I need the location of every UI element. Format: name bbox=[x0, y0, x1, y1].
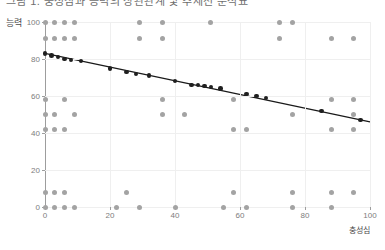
y-tick-label: 100 bbox=[27, 18, 40, 27]
gridline-horizontal bbox=[45, 170, 370, 171]
y-tick-label: 80 bbox=[31, 55, 40, 64]
trend-point bbox=[218, 86, 223, 91]
trend-point bbox=[189, 83, 194, 88]
scatter-point bbox=[52, 190, 57, 195]
x-tick-mark bbox=[305, 207, 306, 210]
scatter-point bbox=[160, 112, 165, 117]
trend-point bbox=[196, 83, 201, 88]
y-tick-mark bbox=[42, 59, 45, 60]
trend-point bbox=[209, 85, 214, 90]
trend-point bbox=[202, 84, 207, 89]
scatter-point bbox=[231, 127, 236, 132]
scatter-point bbox=[277, 36, 282, 41]
scatter-point bbox=[72, 36, 77, 41]
scatter-point bbox=[62, 205, 67, 210]
scatter-point bbox=[277, 20, 282, 25]
scatter-point bbox=[160, 36, 165, 41]
x-tick-mark bbox=[110, 207, 111, 210]
gridline-vertical bbox=[175, 22, 176, 207]
scatter-point bbox=[160, 97, 165, 102]
scatter-point bbox=[244, 205, 249, 210]
gridline-vertical bbox=[240, 22, 241, 207]
scatter-point bbox=[72, 20, 77, 25]
y-axis-title: 능력 bbox=[6, 16, 22, 29]
scatter-point bbox=[62, 20, 67, 25]
gridline-vertical bbox=[305, 22, 306, 207]
scatter-point bbox=[173, 205, 178, 210]
scatter-point bbox=[114, 205, 119, 210]
scatter-point bbox=[43, 190, 48, 195]
scatter-point bbox=[43, 36, 48, 41]
scatter-point bbox=[290, 20, 295, 25]
gridline-horizontal bbox=[45, 59, 370, 60]
plot-area: 020406080100020406080100 bbox=[45, 22, 370, 207]
gridline-horizontal bbox=[45, 133, 370, 134]
scatter-point bbox=[62, 190, 67, 195]
scatter-point bbox=[231, 190, 236, 195]
x-tick-label: 60 bbox=[236, 211, 245, 220]
scatter-point bbox=[72, 205, 77, 210]
scatter-point bbox=[43, 20, 48, 25]
x-tick-label: 0 bbox=[43, 211, 47, 220]
gridline-horizontal bbox=[45, 207, 370, 208]
trend-point bbox=[147, 73, 152, 78]
x-tick-label: 80 bbox=[301, 211, 310, 220]
x-tick-label: 40 bbox=[171, 211, 180, 220]
scatter-point bbox=[290, 205, 295, 210]
scatter-point bbox=[72, 112, 77, 117]
x-tick-label: 100 bbox=[363, 211, 376, 220]
clipped-header-text: 그림 1. 충성심과 능력의 상관관계 및 추세선 분석표 bbox=[0, 0, 385, 11]
scatter-point bbox=[52, 205, 57, 210]
scatter-point bbox=[52, 20, 57, 25]
scatter-point bbox=[221, 205, 226, 210]
x-tick-mark bbox=[240, 207, 241, 210]
y-tick-label: 20 bbox=[31, 166, 40, 175]
scatter-point bbox=[329, 190, 334, 195]
scatter-point bbox=[351, 190, 356, 195]
trend-point bbox=[62, 57, 67, 62]
scatter-point bbox=[329, 127, 334, 132]
scatter-point bbox=[43, 205, 48, 210]
scatter-point bbox=[137, 36, 142, 41]
scatter-point bbox=[290, 112, 295, 117]
x-tick-label: 20 bbox=[106, 211, 115, 220]
scatter-point bbox=[329, 36, 334, 41]
scatter-point bbox=[137, 205, 142, 210]
trend-point bbox=[79, 59, 84, 64]
scatter-point bbox=[244, 127, 249, 132]
scatter-point bbox=[290, 190, 295, 195]
gridline-vertical bbox=[370, 22, 371, 207]
clipped-header-label: 그림 1. 충성심과 능력의 상관관계 및 추세선 분석표 bbox=[6, 0, 248, 8]
trend-point bbox=[108, 66, 113, 71]
x-axis-title: 충성심 bbox=[349, 224, 370, 235]
scatter-point bbox=[62, 127, 67, 132]
trend-point bbox=[43, 51, 48, 56]
scatter-point bbox=[137, 20, 142, 25]
y-tick-label: 40 bbox=[31, 129, 40, 138]
trend-point bbox=[254, 94, 259, 99]
trend-point bbox=[49, 53, 54, 58]
trend-point bbox=[319, 109, 324, 114]
trend-point bbox=[358, 118, 363, 123]
gridline-horizontal bbox=[45, 96, 370, 97]
trend-point bbox=[124, 70, 129, 75]
y-tick-label: 60 bbox=[31, 92, 40, 101]
scatter-point bbox=[43, 112, 48, 117]
gridline-vertical bbox=[110, 22, 111, 207]
scatter-point bbox=[160, 20, 165, 25]
scatter-point bbox=[208, 20, 213, 25]
scatter-point bbox=[43, 97, 48, 102]
trend-line bbox=[45, 22, 370, 207]
scatter-point bbox=[329, 205, 334, 210]
scatter-point bbox=[43, 127, 48, 132]
x-tick-mark bbox=[370, 207, 371, 210]
scatter-point bbox=[124, 190, 129, 195]
scatter-chart: 능력 충성심 020406080100020406080100 bbox=[0, 11, 385, 250]
y-tick-mark bbox=[42, 133, 45, 134]
y-tick-mark bbox=[42, 170, 45, 171]
scatter-point bbox=[329, 97, 334, 102]
y-tick-label: 0 bbox=[36, 203, 40, 212]
